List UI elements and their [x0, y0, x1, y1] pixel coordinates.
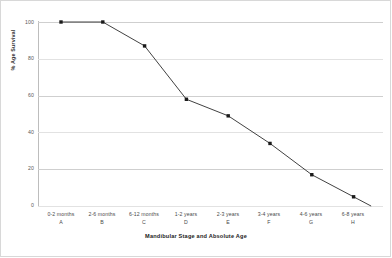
data-point-G [310, 173, 313, 176]
series-markers [59, 20, 355, 198]
y-tick-label-100: 100 [8, 19, 34, 25]
series-line-tail [354, 197, 372, 206]
y-tick-label-40: 40 [8, 129, 34, 135]
y-tick-label-20: 20 [8, 165, 34, 171]
x-tick-E-label: 2-3 years [217, 211, 240, 217]
x-tick-H-code: H [325, 218, 381, 226]
x-tick-F-label: 3-4 years [258, 211, 281, 217]
data-point-D [185, 98, 188, 101]
data-point-E [227, 114, 230, 117]
data-point-B [101, 20, 104, 23]
y-tick-label-0: 0 [8, 202, 34, 208]
data-point-C [143, 44, 146, 47]
data-point-F [268, 142, 271, 145]
x-tick-G-label: 4-6 years [300, 211, 323, 217]
plot-area [38, 22, 383, 206]
x-tick-D-label: 1-2 years [175, 211, 198, 217]
y-tick-label-60: 60 [8, 92, 34, 98]
x-tick-C-label: 6-12 months [129, 211, 159, 217]
data-point-H [352, 195, 355, 198]
x-tick-H: 6-8 years H [325, 210, 381, 226]
y-tick-label-80: 80 [8, 55, 34, 61]
survival-line-series [38, 22, 383, 222]
x-tick-A-label: 0-2 months [48, 211, 75, 217]
series-line [61, 22, 354, 197]
chart-page: % Age Survival 100 80 60 40 20 0 0-2 mon… [0, 0, 392, 258]
data-point-A [59, 20, 62, 23]
x-axis-title: Mandibular Stage and Absolute Age [0, 233, 392, 239]
x-tick-B-label: 2-6 months [89, 211, 116, 217]
x-tick-H-label: 6-8 years [342, 211, 365, 217]
